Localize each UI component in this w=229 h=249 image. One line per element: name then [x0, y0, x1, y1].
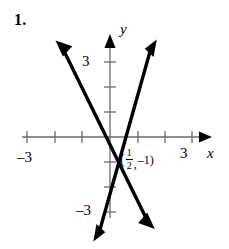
fraction-numerator: 1	[126, 148, 133, 158]
line-positive-slope-arrow-upper-right	[145, 40, 157, 58]
intersection-open-paren: (	[120, 153, 125, 167]
fraction-denominator: 2	[126, 161, 133, 171]
intersection-y-value: –1)	[138, 154, 154, 166]
y-tick-label-pos3: 3	[82, 54, 90, 69]
x-axis-label: x	[207, 146, 214, 161]
y-axis-arrowhead	[105, 34, 116, 48]
y-tick-label-neg3: –3	[76, 203, 91, 218]
line-negative-slope-arrow-lower-right	[138, 213, 155, 230]
intersection-point-label: ( 1 2 , –1)	[120, 148, 154, 171]
math-figure: 1. y x –3 3 3 –3	[0, 0, 229, 249]
x-tick-label-neg3: –3	[17, 150, 32, 165]
intersection-fraction: 1 2	[126, 148, 133, 171]
line-negative-slope	[62, 47, 148, 222]
line-positive-slope-arrow-lower-left	[93, 224, 105, 242]
x-tick-label-pos3: 3	[180, 146, 188, 161]
intersection-comma: ,	[134, 158, 137, 171]
x-axis-arrowhead	[199, 132, 212, 143]
y-axis-label: y	[120, 22, 127, 37]
line-negative-slope-arrow-upper-left	[56, 41, 73, 57]
coordinate-plane-graph	[0, 0, 229, 249]
